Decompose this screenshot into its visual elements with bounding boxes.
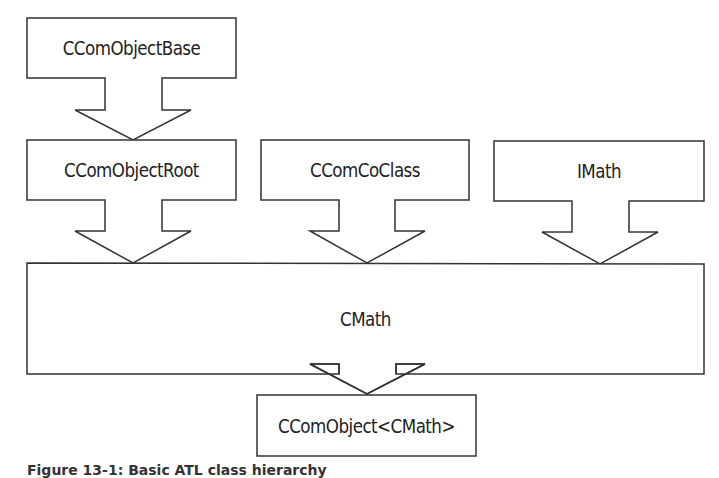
- node-ccomcoclass: CComCoClass: [273, 140, 456, 200]
- node-ccomobjectroot: CComObjectRoot: [40, 140, 224, 200]
- node-ccomobject-cmath: CComObject<CMath>: [270, 395, 463, 456]
- figure-caption: Figure 13-1: Basic ATL class hierarchy: [27, 462, 327, 478]
- node-cmath: CMath: [68, 263, 664, 374]
- node-ccomobjectbase: CComObjectBase: [40, 18, 224, 78]
- node-imath: IMath: [507, 141, 692, 201]
